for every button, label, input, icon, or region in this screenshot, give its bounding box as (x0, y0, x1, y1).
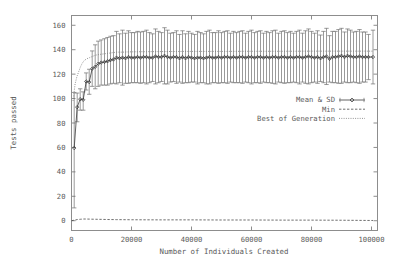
x-tick-label: 0 (69, 235, 73, 244)
y-tick-label: 60 (57, 143, 66, 152)
y-tick-label: 80 (57, 119, 66, 128)
x-tick-label: 60000 (241, 235, 263, 244)
error-bar-chart: 020000400006000080000100000 020406080100… (0, 0, 407, 266)
y-tick-label: 0 (61, 216, 65, 225)
x-tick-label: 100000 (359, 235, 385, 244)
y-tick-label: 20 (57, 192, 66, 201)
legend-label: Best of Generation (257, 114, 335, 123)
x-tick-label: 40000 (181, 235, 203, 244)
chart-legend: Mean & SDMinBest of Generation (257, 95, 365, 122)
x-axis-title: Number of Individuals Created (159, 247, 288, 256)
y-tick-label: 140 (53, 45, 66, 54)
min-series-line (72, 219, 374, 221)
y-axis-title: Tests passed (9, 96, 18, 149)
y-tick-label: 100 (53, 94, 66, 103)
y-axis-tick-labels: 020406080100120140160 (53, 21, 66, 225)
legend-label: Mean & SD (296, 95, 335, 104)
x-tick-label: 20000 (121, 235, 143, 244)
x-axis-tick-labels: 020000400006000080000100000 (69, 235, 384, 244)
x-tick-label: 80000 (301, 235, 323, 244)
y-tick-label: 160 (53, 21, 66, 30)
legend-label: Min (322, 105, 335, 114)
chart-canvas: 020000400006000080000100000 020406080100… (0, 0, 407, 266)
y-tick-label: 40 (57, 167, 66, 176)
y-tick-label: 120 (53, 70, 66, 79)
